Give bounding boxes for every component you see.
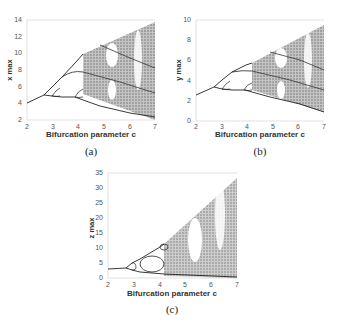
svg-text:6: 6 xyxy=(296,123,300,130)
x-axis-ticks: 2 3 4 5 6 7 xyxy=(106,281,239,288)
svg-text:8: 8 xyxy=(187,36,191,43)
chart-panel-a: 2 4 6 8 10 12 14 2 3 4 5 6 7 Bifurcation… xyxy=(0,0,170,160)
svg-text:4: 4 xyxy=(18,99,22,106)
svg-text:5: 5 xyxy=(99,259,103,266)
bifurcation-plot-z: 0 5 10 15 20 25 30 35 2 3 4 5 6 7 Bifurc… xyxy=(80,160,260,321)
svg-text:4: 4 xyxy=(158,281,162,288)
y-axis-ticks: 0 5 10 15 20 25 30 35 xyxy=(95,169,103,281)
chart-panel-c: 0 5 10 15 20 25 30 35 2 3 4 5 6 7 Bifurc… xyxy=(80,160,260,321)
svg-text:2: 2 xyxy=(25,123,29,130)
svg-text:15: 15 xyxy=(95,229,103,236)
svg-text:6: 6 xyxy=(187,56,191,63)
svg-text:4: 4 xyxy=(187,77,191,84)
y-axis-ticks: 0 2 4 6 8 10 xyxy=(183,16,191,124)
svg-text:7: 7 xyxy=(235,281,239,288)
bifurcation-plot-x: 2 4 6 8 10 12 14 2 3 4 5 6 7 Bifurcation… xyxy=(0,0,170,160)
y-axis-label: z max xyxy=(87,217,96,239)
svg-text:4: 4 xyxy=(245,123,249,130)
bifurcation-plot-y: 0 2 4 6 8 10 2 3 4 5 6 7 Bifurcation par… xyxy=(170,0,340,160)
svg-text:5: 5 xyxy=(271,123,275,130)
svg-text:7: 7 xyxy=(322,123,326,130)
svg-text:0: 0 xyxy=(99,274,103,281)
x-axis-ticks: 2 3 4 5 6 7 xyxy=(194,123,326,130)
x-axis-label: Bifurcation parameter c xyxy=(127,289,217,298)
x-axis-label: Bifurcation parameter c xyxy=(215,130,305,139)
y-axis-ticks: 2 4 6 8 10 12 14 xyxy=(14,16,22,123)
svg-text:5: 5 xyxy=(102,123,106,130)
caption-b: (b) xyxy=(240,145,280,157)
chart-panel-b: 0 2 4 6 8 10 2 3 4 5 6 7 Bifurcation par… xyxy=(170,0,340,160)
svg-text:2: 2 xyxy=(187,97,191,104)
svg-text:14: 14 xyxy=(14,16,22,23)
svg-text:6: 6 xyxy=(128,123,132,130)
svg-text:25: 25 xyxy=(95,199,103,206)
y-axis-label: x max xyxy=(5,59,14,81)
svg-text:10: 10 xyxy=(183,16,191,23)
svg-text:35: 35 xyxy=(95,169,103,176)
svg-text:20: 20 xyxy=(95,214,103,221)
svg-text:3: 3 xyxy=(51,123,55,130)
x-axis-ticks: 2 3 4 5 6 7 xyxy=(25,123,157,130)
svg-text:5: 5 xyxy=(183,281,187,288)
svg-text:30: 30 xyxy=(95,184,103,191)
caption-c: (c) xyxy=(152,303,192,315)
svg-text:2: 2 xyxy=(18,116,22,123)
caption-a: (a) xyxy=(71,145,111,157)
svg-text:7: 7 xyxy=(153,123,157,130)
svg-text:3: 3 xyxy=(220,123,224,130)
y-axis-label: y max xyxy=(174,59,183,81)
svg-text:3: 3 xyxy=(132,281,136,288)
svg-text:4: 4 xyxy=(76,123,80,130)
svg-text:6: 6 xyxy=(18,83,22,90)
svg-text:8: 8 xyxy=(18,66,22,73)
svg-text:12: 12 xyxy=(14,33,22,40)
svg-text:2: 2 xyxy=(106,281,110,288)
svg-text:2: 2 xyxy=(194,123,198,130)
svg-text:10: 10 xyxy=(95,244,103,251)
svg-text:10: 10 xyxy=(14,49,22,56)
x-axis-label: Bifurcation parameter c xyxy=(46,130,136,139)
svg-text:0: 0 xyxy=(187,117,191,124)
svg-text:6: 6 xyxy=(209,281,213,288)
